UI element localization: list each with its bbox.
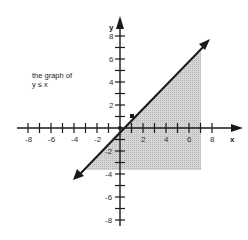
x-axis-arrow-icon [231, 124, 243, 132]
x-tick-label: 6 [187, 135, 192, 144]
y-tick-label: 6 [109, 55, 114, 64]
y-tick-label: 4 [109, 78, 114, 87]
x-tick-label: 2 [141, 135, 146, 144]
x-tick-label: -8 [25, 135, 33, 144]
graph-annotation: the graph of y ≤ x [32, 71, 72, 89]
origin-marker [118, 126, 122, 130]
y-tick-label: -4 [105, 170, 113, 179]
x-tick-label: 4 [164, 135, 169, 144]
y-tick-label: 8 [109, 32, 114, 41]
x-tick-label: -6 [48, 135, 56, 144]
point-marker [130, 114, 134, 118]
y-tick-label: -8 [105, 216, 113, 225]
y-tick-label: 2 [109, 101, 114, 110]
y-tick-label: -6 [105, 193, 113, 202]
x-tick-label: -2 [94, 135, 102, 144]
x-tick-label: 8 [210, 135, 215, 144]
y-axis-label: y [109, 23, 114, 32]
x-axis-label: x [230, 135, 235, 144]
coordinate-plane: -8 -6 -4 -2 2 4 6 8 x [0, 0, 248, 240]
y-axis-arrow-icon [116, 16, 124, 29]
annotation-line-1: the graph of [32, 71, 72, 80]
y-axis: y 8 6 4 2 -2 -4 -6 -8 [105, 16, 125, 226]
annotation-line-2: y ≤ x [32, 80, 72, 89]
x-tick-label: -4 [71, 135, 79, 144]
